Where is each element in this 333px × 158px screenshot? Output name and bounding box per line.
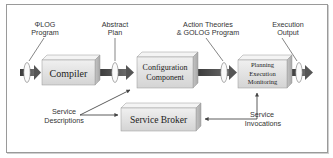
planning-execution-monitoring-box: Planning Execution Monitoring <box>238 55 292 88</box>
label-service-descriptions: Service Descriptions <box>44 107 84 125</box>
svg-text:Configuration: Configuration <box>143 63 188 72</box>
svg-text:Program: Program <box>31 28 59 37</box>
flow-arrow-config-to-pem <box>197 65 237 80</box>
svg-text:Service: Service <box>250 110 274 119</box>
label-action-theories: Action Theories & GOLOG Program <box>177 20 240 37</box>
label-philog-program: ΦLOG Program <box>31 20 59 37</box>
svg-text:Planning: Planning <box>251 61 275 68</box>
label-execution-output: Execution Output <box>272 20 304 37</box>
svg-text:Service: Service <box>52 107 76 116</box>
leader-action <box>206 38 223 61</box>
lens-abstract-icon <box>112 63 118 83</box>
lens-action-icon <box>221 63 227 83</box>
architecture-diagram: ΦLOG Program Abstract Plan Action Theori… <box>0 0 333 158</box>
configuration-component-box: Configuration Component <box>137 52 198 88</box>
lens-execution-icon <box>296 63 302 83</box>
compiler-box: Compiler <box>42 55 100 85</box>
service-broker-box: Service Broker <box>121 103 201 131</box>
svg-text:Component: Component <box>146 73 184 82</box>
svg-text:& GOLOG Program: & GOLOG Program <box>177 28 240 37</box>
lens-philog-icon <box>24 63 30 83</box>
svg-text:Invocations: Invocations <box>245 119 282 128</box>
svg-text:Service Broker: Service Broker <box>130 115 188 125</box>
svg-text:Output: Output <box>277 28 299 37</box>
svg-text:Descriptions: Descriptions <box>44 116 84 125</box>
svg-text:Execution: Execution <box>249 70 276 77</box>
leader-philog <box>29 38 44 61</box>
svg-text:Compiler: Compiler <box>50 68 88 79</box>
label-abstract-plan: Abstract Plan <box>102 20 128 37</box>
svg-text:Monitoring: Monitoring <box>248 78 278 85</box>
svg-text:Plan: Plan <box>108 28 122 37</box>
